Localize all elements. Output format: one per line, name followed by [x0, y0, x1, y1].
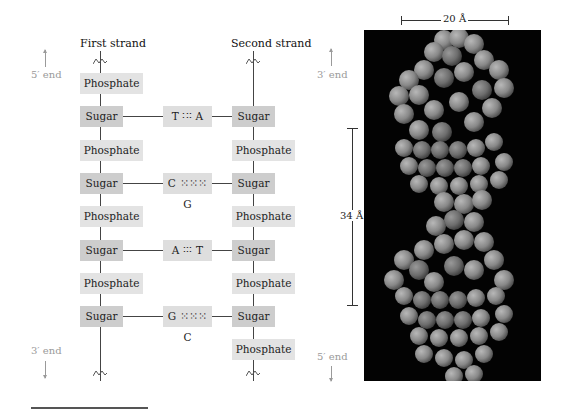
first-strand-5prime-arrow-icon: [45, 50, 46, 67]
second-strand-sugar-4: Sugar: [232, 306, 275, 327]
second-strand-phosphate-2: Phosphate: [232, 206, 295, 227]
second-strand-title: Second strand: [231, 37, 311, 50]
first-strand-sugar-4: Sugar: [80, 306, 123, 327]
width-scale-bar-left-tick: [401, 16, 402, 25]
pitch-scale-bar-bottom-tick: [347, 305, 358, 306]
width-scale-bar-right-tick: [508, 16, 509, 25]
dna-space-filling-model: [364, 30, 541, 381]
base-pair-1: T ∶∶∶ A: [163, 106, 212, 127]
first-strand-top-break-icon: [93, 57, 107, 65]
second-strand-sugar-2: Sugar: [232, 173, 275, 194]
pitch-scale-label: 34 Å: [338, 210, 365, 221]
first-strand-bottom-break-icon: [93, 369, 107, 377]
first-strand-5prime-label: 5′ end: [31, 69, 62, 80]
dna-helix-illustration: [364, 30, 541, 381]
width-scale-label: 20 Å: [441, 13, 468, 24]
pitch-scale-bar-top-tick: [347, 128, 358, 129]
first-strand-sugar-3: Sugar: [80, 240, 123, 261]
second-strand-sugar-3: Sugar: [232, 240, 275, 261]
second-strand-sugar-1: Sugar: [232, 106, 275, 127]
first-strand-3prime-label: 3′ end: [31, 345, 62, 356]
footnote-rule: [31, 407, 148, 409]
first-strand-3prime-arrow-icon: [45, 361, 46, 378]
base-pair-4: G ⁙⁙⁙ C: [163, 306, 212, 327]
first-strand-phosphate-4: Phosphate: [80, 273, 143, 294]
second-strand-phosphate-3: Phosphate: [232, 273, 295, 294]
first-strand-sugar-2: Sugar: [80, 173, 123, 194]
second-strand-bottom-break-icon: [246, 369, 260, 377]
second-strand-top-break-icon: [246, 57, 260, 65]
first-strand-title: First strand: [80, 37, 146, 50]
first-strand-sugar-1: Sugar: [80, 106, 123, 127]
base-pair-3: A ∶∶∶ T: [163, 240, 212, 261]
second-strand-phosphate-4: Phosphate: [232, 339, 295, 360]
second-strand-phosphate-1: Phosphate: [232, 140, 295, 161]
second-strand-5prime-label: 5′ end: [317, 351, 348, 362]
first-strand-phosphate-1: Phosphate: [80, 73, 143, 94]
second-strand-5prime-arrow-icon: [331, 366, 332, 381]
base-pair-2: C ⁙⁙⁙ G: [163, 173, 212, 194]
first-strand-phosphate-2: Phosphate: [80, 140, 143, 161]
first-strand-phosphate-3: Phosphate: [80, 206, 143, 227]
second-strand-3prime-label: 3′ end: [317, 69, 348, 80]
second-strand-3prime-arrow-icon: [331, 49, 332, 66]
